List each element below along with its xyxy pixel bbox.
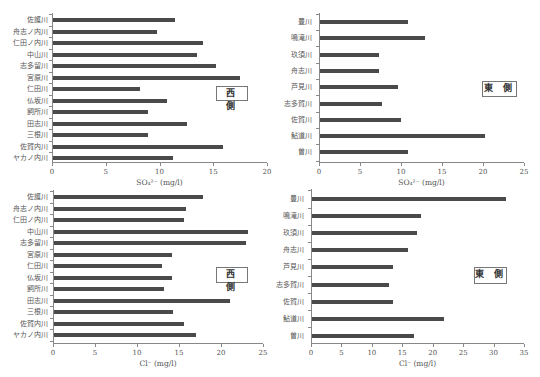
category-label: 佐賀内川 — [0, 143, 48, 151]
category-label: 鮎道川 — [252, 132, 312, 140]
bar — [312, 283, 389, 287]
category-label: 鳴滝川 — [252, 34, 312, 42]
chart-figure: 佐護川舟志ノ内川仁田ノ内川中山川志多留川宮原川仁田川仏坂川飼所川田志川三根川佐賀… — [0, 0, 540, 377]
bar — [320, 85, 398, 89]
y-tick — [316, 14, 319, 15]
category-label: 仏坂川 — [0, 97, 48, 105]
category-label: 仁田川 — [0, 262, 48, 270]
bar — [312, 265, 393, 269]
y-tick — [50, 341, 53, 342]
x-axis — [311, 343, 524, 344]
bar — [54, 253, 172, 257]
category-label: 豊川 — [252, 18, 312, 26]
x-tick-label: 5 — [350, 168, 370, 176]
bar — [53, 110, 148, 114]
x-axis — [319, 162, 524, 163]
x-tick — [179, 344, 180, 347]
x-tick-label: 25 — [253, 349, 273, 357]
legend-box: 東 側 — [482, 81, 517, 97]
y-tick — [49, 26, 52, 27]
category-label: 佐護川 — [0, 193, 48, 201]
y-tick — [308, 276, 311, 277]
y-tick — [49, 152, 52, 153]
y-tick — [50, 272, 53, 273]
x-tick — [341, 344, 342, 347]
x-tick — [442, 163, 443, 166]
x-tick — [221, 344, 222, 347]
bar — [312, 248, 408, 252]
category-label: 曽川 — [252, 148, 312, 156]
y-tick — [308, 208, 311, 209]
x-tick-label: 20 — [473, 168, 493, 176]
bar — [54, 322, 184, 326]
category-label: 飼所川 — [0, 285, 48, 293]
category-label: ヤカノ内川 — [0, 331, 48, 339]
bar — [312, 231, 417, 235]
x-tick-label: 10 — [362, 349, 382, 357]
y-tick — [50, 203, 53, 204]
category-label: 豊川 — [244, 195, 304, 203]
x-tick-label: 10 — [391, 168, 411, 176]
y-tick — [49, 14, 52, 15]
x-tick — [401, 163, 402, 166]
y-tick — [316, 128, 319, 129]
y-tick — [49, 83, 52, 84]
bar — [320, 102, 382, 106]
category-label: 三根川 — [0, 131, 48, 139]
category-label: 飼所川 — [0, 108, 48, 116]
bar — [53, 133, 148, 137]
x-tick-label: 15 — [169, 349, 189, 357]
y-tick — [316, 144, 319, 145]
bar — [312, 214, 421, 218]
bar — [320, 134, 485, 138]
bar — [54, 230, 248, 234]
category-label: 舟志ノ内川 — [0, 28, 48, 36]
bar — [54, 241, 246, 245]
category-label: 田志川 — [0, 120, 48, 128]
bar — [54, 333, 196, 337]
bar — [54, 310, 173, 314]
y-tick — [316, 46, 319, 47]
y-tick — [49, 141, 52, 142]
x-tick — [311, 344, 312, 347]
bar — [53, 53, 197, 57]
y-tick — [316, 112, 319, 113]
bar — [320, 36, 425, 40]
x-tick — [494, 344, 495, 347]
x-axis-title: SO₄²⁻ (mg/l) — [382, 178, 462, 187]
x-tick — [524, 163, 525, 166]
y-tick — [49, 118, 52, 119]
x-tick-label: 15 — [392, 349, 412, 357]
y-tick — [49, 37, 52, 38]
y-tick — [308, 310, 311, 311]
y-tick — [308, 242, 311, 243]
category-label: 志多賀川 — [252, 100, 312, 108]
bar — [53, 41, 203, 45]
y-tick — [50, 191, 53, 192]
category-label: 鳴滝川 — [244, 212, 304, 220]
x-tick-label: 0 — [43, 349, 63, 357]
bar — [54, 276, 172, 280]
bar — [320, 53, 379, 57]
legend-box: 東 側 — [474, 267, 507, 284]
category-label: 仁田川 — [0, 85, 48, 93]
bar — [312, 334, 414, 338]
category-label: 宮原川 — [0, 74, 48, 82]
category-label: 鮎道川 — [244, 315, 304, 323]
y-tick — [50, 237, 53, 238]
x-tick — [213, 163, 214, 166]
category-label: 三根川 — [0, 308, 48, 316]
x-tick — [483, 163, 484, 166]
x-tick-label: 15 — [203, 168, 223, 176]
bar — [54, 299, 230, 303]
y-tick — [308, 225, 311, 226]
y-tick — [49, 129, 52, 130]
x-tick-label: 15 — [432, 168, 452, 176]
x-tick — [263, 344, 264, 347]
y-tick — [50, 306, 53, 307]
bar — [53, 64, 216, 68]
category-label: 中山川 — [0, 228, 48, 236]
x-axis-title: SO₄²⁻ (mg/l) — [120, 178, 200, 187]
category-label: 玖須川 — [252, 51, 312, 59]
x-tick — [106, 163, 107, 166]
